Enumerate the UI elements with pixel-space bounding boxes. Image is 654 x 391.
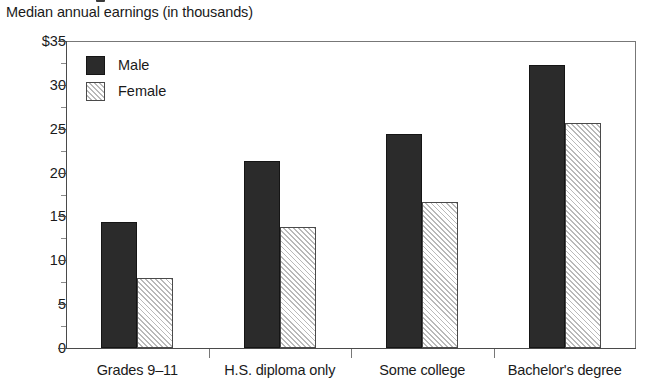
y-tick-major [58,216,66,217]
chart-legend: Male Female [86,52,166,104]
x-tick-separator [209,349,210,358]
x-tick-separator [351,349,352,358]
bar-male [101,222,137,348]
x-category-label: Grades 9–11 [66,361,209,379]
legend-swatch-female-icon [86,82,105,101]
bar-male [386,134,422,348]
x-tick-separator [494,349,495,358]
y-tick-major [58,41,66,42]
bar-male [529,65,565,348]
y-tick-major [58,85,66,86]
bar-female [565,123,601,348]
legend-item-female: Female [86,78,166,104]
legend-item-male: Male [86,52,166,78]
bar-female [422,202,458,348]
y-tick-major [58,173,66,174]
bar-male [244,161,280,348]
legend-label-male: Male [118,57,149,73]
legend-label-female: Female [118,83,166,99]
y-axis: $35302520151050 [0,0,66,391]
bar-female [280,227,316,348]
legend-swatch-male-icon [86,56,105,75]
cropped-text-remnant [96,0,105,2]
x-category-label: Bachelor's degree [494,361,637,379]
y-tick-major [58,348,66,349]
y-tick-major [58,129,66,130]
x-category-label: H.S. diploma only [209,361,352,379]
y-tick-major [58,304,66,305]
x-category-label: Some college [351,361,494,379]
y-tick-major [58,260,66,261]
bar-female [137,278,173,348]
